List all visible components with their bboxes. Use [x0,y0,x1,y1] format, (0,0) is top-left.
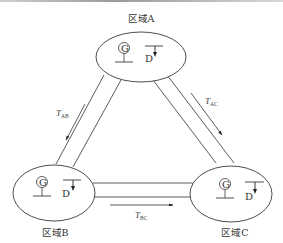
transfer-arrow-ac: TAC [191,93,222,135]
transfer-arrow-ab: TAB [56,104,85,140]
region-a: G D 区域A [96,13,186,82]
transfer-arrow-bc: TBC [110,205,173,221]
region-c: G D 区域C [190,166,272,238]
transfer-label-bc: TBC [135,210,148,221]
region-a-label: 区域A [128,13,155,24]
region-b-label: 区域B [42,227,69,238]
transfer-label-ac: TAC [205,96,218,107]
interconnection-diagram: G D 区域A G D 区域B G [0,0,283,243]
transfer-label-ab: TAB [56,108,69,119]
corridor-ac [153,75,234,163]
generator-label: G [222,179,230,190]
corridor-bc [93,183,193,197]
corridor-ab [56,75,121,167]
region-b: G D 区域B [13,165,95,238]
load-label: D [145,53,153,64]
region-c-label: 区域C [221,227,248,238]
load-label: D [62,188,70,199]
generator-label: G [121,43,129,54]
load-label: D [245,191,253,202]
generator-label: G [39,177,47,188]
